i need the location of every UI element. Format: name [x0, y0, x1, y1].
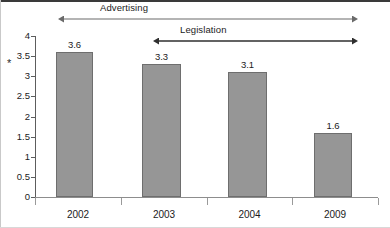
bar-value-label-2003: 3.3 — [142, 51, 181, 62]
x-tick-mark — [207, 198, 208, 205]
y-tick-label-2: 1 — [0, 151, 30, 163]
bottom-divider — [0, 227, 390, 228]
y-tick-label-8: 4 — [0, 30, 30, 42]
y-tick-label-1: 0.5 — [0, 171, 30, 183]
y-axis-line — [35, 36, 36, 197]
y-tick-label-5: 2.5 — [0, 90, 30, 102]
y-tick-mark — [31, 177, 35, 178]
y-tick-label-text: 3.5 — [17, 50, 30, 61]
y-tick-mark — [31, 137, 35, 138]
y-tick-label-7: 3.5 — [0, 50, 30, 62]
y-tick-label-text: 1.5 — [17, 131, 30, 142]
y-tick-label-4: 2 — [0, 111, 30, 123]
y-tick-label-text: 0.5 — [17, 171, 30, 182]
bar-value-label-2004: 3.1 — [228, 59, 267, 70]
x-axis-label-2002: 2002 — [35, 209, 121, 220]
y-tick-label-6: 3 — [0, 70, 30, 82]
bar-value-label-2002: 3.6 — [56, 39, 93, 50]
y-tick-mark — [31, 157, 35, 158]
bar-2003[interactable] — [142, 64, 181, 197]
bar-value-label-2009: 1.6 — [314, 120, 352, 131]
y-tick-label-text: 1 — [25, 151, 30, 162]
y-tick-mark — [31, 117, 35, 118]
y-tick-label-text: 4 — [25, 30, 30, 41]
x-axis-label-2009: 2009 — [292, 209, 378, 220]
x-axis-label-2003: 2003 — [121, 209, 207, 220]
x-tick-mark — [35, 198, 36, 205]
x-tick-mark — [292, 198, 293, 205]
y-tick-label-text: 3 — [25, 70, 30, 81]
x-tick-mark — [121, 198, 122, 205]
y-tick-mark — [31, 36, 35, 37]
y-tick-label-0: 0 — [0, 191, 30, 203]
y-tick-mark — [31, 56, 35, 57]
x-tick-mark — [378, 198, 379, 205]
y-tick-label-text: 2 — [25, 111, 30, 122]
bar-2004[interactable] — [228, 72, 267, 197]
y-tick-label-text: 2.5 — [17, 90, 30, 101]
bar-2002[interactable] — [56, 52, 93, 197]
bar-2009[interactable] — [314, 133, 352, 197]
y-tick-label-text: 0 — [25, 191, 30, 202]
bar-chart-figure: Advertising Legislation * 0 — [0, 0, 390, 228]
y-tick-mark — [31, 76, 35, 77]
x-axis-label-2004: 2004 — [207, 209, 292, 220]
y-tick-mark — [31, 96, 35, 97]
y-tick-label-3: 1.5 — [0, 131, 30, 143]
